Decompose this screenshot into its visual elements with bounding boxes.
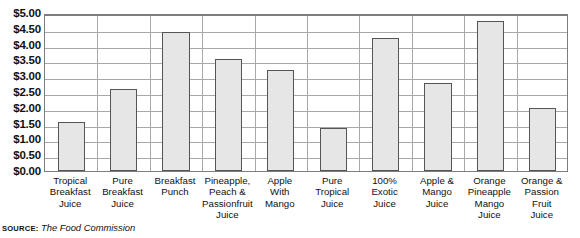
bar-chart: $0.00$0.50$1.00$1.50$2.00$2.50$3.00$3.50…	[0, 0, 580, 238]
source-name: The Food Commission	[41, 222, 135, 233]
bar	[424, 83, 451, 171]
x-tick-label: Apple With Mango	[254, 175, 306, 209]
bar	[267, 70, 294, 171]
y-tick-label: $0.50	[13, 150, 41, 162]
x-tick-label: Pure Tropical Juice	[306, 175, 358, 209]
x-tick-label: 100% Exotic Juice	[358, 175, 410, 209]
x-tick-label: Orange Pineapple Mango Juice	[463, 175, 515, 221]
y-tick-label: $4.50	[13, 24, 41, 36]
x-axis: Tropical Breakfast JuicePure Breakfast J…	[44, 175, 568, 223]
bar	[320, 128, 347, 171]
plot-area	[44, 14, 568, 172]
y-tick-label: $2.00	[13, 103, 41, 115]
x-tick-label: Orange & Passion Fruit Juice	[516, 175, 568, 221]
bar	[58, 122, 85, 171]
source-label: Source:	[2, 224, 38, 233]
bar	[529, 108, 556, 171]
x-tick-label: Pure Breakfast Juice	[96, 175, 148, 209]
bar	[110, 89, 137, 171]
x-tick-label: Pineapple, Peach & Passionfruit Juice	[201, 175, 253, 221]
bar	[162, 32, 189, 171]
x-tick-label: Tropical Breakfast Juice	[44, 175, 96, 209]
x-tick-label: Breakfast Punch	[149, 175, 201, 198]
y-tick-label: $4.00	[13, 40, 41, 52]
y-tick-label: $2.50	[13, 87, 41, 99]
y-tick-label: $0.00	[13, 166, 41, 178]
bar	[372, 38, 399, 171]
x-tick-label: Apple & Mango Juice	[411, 175, 463, 209]
bar	[215, 59, 242, 171]
y-tick-label: $3.50	[13, 56, 41, 68]
y-tick-label: $1.50	[13, 119, 41, 131]
y-tick-label: $5.00	[13, 8, 41, 20]
bar	[477, 21, 504, 171]
y-tick-label: $1.00	[13, 135, 41, 147]
y-tick-label: $3.00	[13, 71, 41, 83]
y-axis: $0.00$0.50$1.00$1.50$2.00$2.50$3.00$3.50…	[0, 0, 44, 180]
bars-layer	[45, 16, 567, 171]
source-note: Source: The Food Commission	[2, 222, 135, 234]
